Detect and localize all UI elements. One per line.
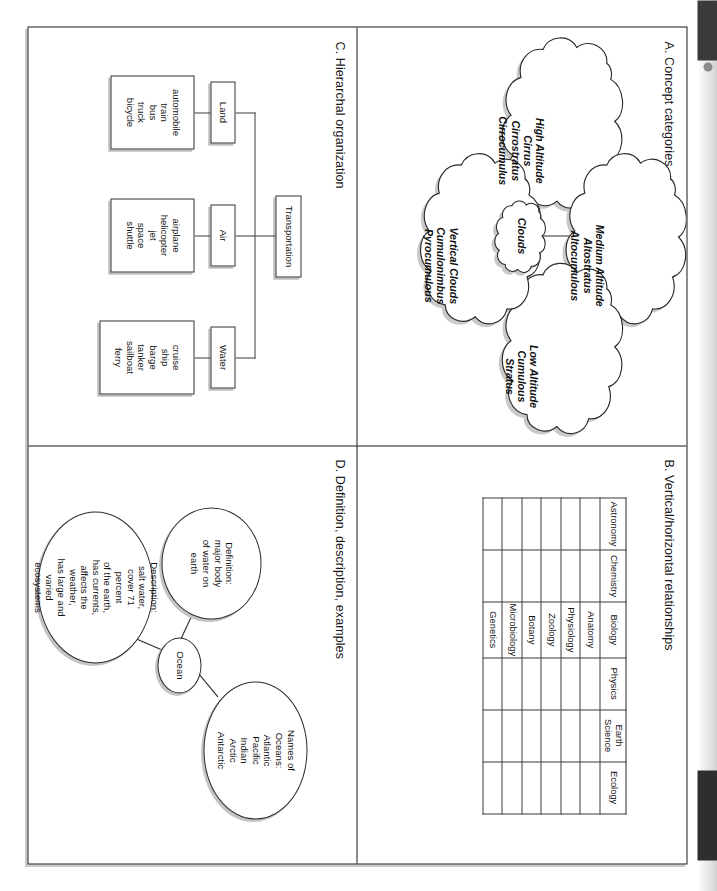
- quadrant-d-definition-description-examples: D. Definition, description, examples Oce…: [28, 445, 357, 863]
- quadrant-a-concept-categories: A. Concept categories: [357, 27, 686, 445]
- cloud-label-low-altitude: Low Altitude Cumulous Stratus: [503, 344, 540, 407]
- table-cell-r1-c2: Physiology: [561, 602, 581, 658]
- table-cell-r5-c2: Genetics: [483, 602, 503, 658]
- table-cell-r5-c1: [483, 550, 503, 602]
- table-header-cell-0: Astronomy: [600, 498, 626, 550]
- oval-definition: Definition: major body of water on earth: [161, 507, 261, 619]
- table-cell-r0-c4: [580, 709, 600, 761]
- table-cell-r0-c2: Anatomy: [580, 602, 600, 658]
- oval-description: Description: salt water, cover 71 percen…: [37, 511, 153, 663]
- table-cell-r5-c3: [483, 657, 503, 709]
- oval-center-ocean: Ocean: [157, 637, 201, 693]
- table-cell-r0-c0: [580, 498, 600, 550]
- table-cell-r3-c0: [522, 498, 542, 550]
- quadrant-b-title: B. Vertical/horizontal relationships: [661, 459, 675, 650]
- table-row: Genetics: [483, 498, 503, 814]
- scan-edge-dark-block-2: [697, 770, 717, 860]
- table-cell-r4-c3: [502, 657, 522, 709]
- quadrant-b-vertical-horizontal-relationships: B. Vertical/horizontal relationships Ast…: [357, 445, 686, 863]
- scanned-page: A. Concept categories: [0, 0, 717, 891]
- table-cell-r4-c2: Microbiology: [502, 602, 522, 658]
- science-disciplines-table: AstronomyChemistryBiologyPhysicsEarth Sc…: [482, 497, 626, 814]
- table-cell-r2-c3: [541, 657, 561, 709]
- four-quadrant-frame: A. Concept categories: [27, 26, 687, 864]
- tree-items-water: cruise ship barge tanker sailboat ferry: [99, 320, 194, 394]
- table-cell-r2-c4: [541, 709, 561, 761]
- table-header-cell-3: Physics: [600, 657, 626, 709]
- table-cell-r3-c4: [522, 709, 542, 761]
- table-cell-r1-c4: [561, 709, 581, 761]
- cloud-label-center-clouds: Clouds: [515, 217, 527, 254]
- cloud-label-high-altitude: High Altitude Cirrus Cirrostratus Cirroc…: [497, 116, 547, 185]
- table-row: Microbiology: [502, 498, 522, 814]
- quadrant-c-hierarchal-organization: C. Hierarchal organization Transportatio…: [28, 27, 357, 445]
- tree-items-air: airplane helicopter jet space shuttle: [110, 198, 194, 272]
- table-cell-r4-c4: [502, 709, 522, 761]
- table-cell-r3-c5: [522, 761, 542, 813]
- cloud-label-vertical-clouds: Vertical Clouds Cumulonimbus Pyrocumulou…: [422, 227, 459, 304]
- table-cell-r5-c4: [483, 709, 503, 761]
- tree-connector-air-stem: [235, 235, 255, 236]
- table-cell-r0-c3: [580, 657, 600, 709]
- tree-connector-air-to-items: [194, 235, 210, 236]
- table-cell-r5-c0: [483, 498, 503, 550]
- tree-connector-water-stem: [235, 357, 255, 358]
- table-cell-r1-c0: [561, 498, 581, 550]
- table-cell-r4-c0: [502, 498, 522, 550]
- tree-connector-root-stem: [255, 235, 275, 236]
- scan-hole-punch-mark: [703, 62, 712, 71]
- table-cell-r1-c3: [561, 657, 581, 709]
- table-header-cell-5: Ecology: [600, 761, 626, 813]
- cloud-label-medium-altitude: Medium Altitude Altostratus Altocumulous: [569, 224, 606, 306]
- table-row: Physiology: [561, 498, 581, 814]
- table-cell-r4-c5: [502, 761, 522, 813]
- table-header-cell-1: Chemistry: [600, 550, 626, 602]
- table-cell-r2-c0: [541, 498, 561, 550]
- table-cell-r0-c1: [580, 550, 600, 602]
- table-cell-r2-c2: Zoology: [541, 602, 561, 658]
- table-cell-r3-c2: Botany: [522, 602, 542, 658]
- tree-node-root: Transportation: [275, 195, 301, 277]
- tree-connector-land-stem: [235, 112, 255, 113]
- tree-node-water: Water: [210, 326, 235, 388]
- table-cell-r3-c3: [522, 657, 542, 709]
- table-header-row: AstronomyChemistryBiologyPhysicsEarth Sc…: [600, 498, 626, 814]
- table-row: Zoology: [541, 498, 561, 814]
- table-cell-r4-c1: [502, 550, 522, 602]
- tree-items-land: automobile train bus truck bicycle: [110, 75, 194, 149]
- scan-edge-dark-block: [697, 0, 717, 60]
- table-cell-r2-c5: [541, 761, 561, 813]
- scan-gutter-artifact: [697, 0, 717, 891]
- table-cell-r1-c5: [561, 761, 581, 813]
- oval-names-of-oceans: Names of Oceans: Atlantic Pacific Indian…: [203, 681, 307, 819]
- table-cell-r2-c1: [541, 550, 561, 602]
- table-row: Anatomy: [580, 498, 600, 814]
- transportation-tree: Transportation Land Air Water automobile…: [28, 27, 357, 445]
- table-row: Botany: [522, 498, 542, 814]
- tree-connector-water-to-items: [194, 357, 210, 358]
- table-header-cell-2: Biology: [600, 602, 626, 658]
- table-cell-r5-c5: [483, 761, 503, 813]
- tree-connector-land-to-items: [194, 112, 210, 113]
- table-cell-r0-c5: [580, 761, 600, 813]
- table-cell-r1-c1: [561, 550, 581, 602]
- tree-node-land: Land: [210, 81, 235, 143]
- tree-node-air: Air: [210, 204, 235, 266]
- table-header-cell-4: Earth Science: [600, 709, 626, 761]
- table-cell-r3-c1: [522, 550, 542, 602]
